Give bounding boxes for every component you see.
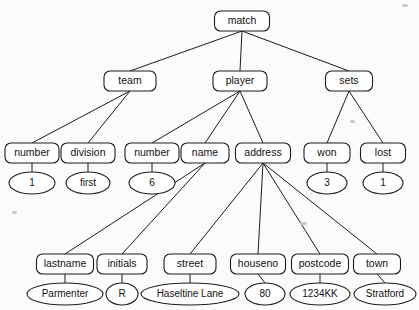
node-label-team: team	[118, 74, 142, 86]
value-node-v_street[interactable]: Haseltine Lane	[141, 283, 239, 305]
node-label-sets: sets	[339, 74, 358, 86]
element-node-postcode[interactable]: postcode	[292, 254, 349, 274]
node-label-postcode: postcode	[299, 257, 342, 269]
edge-player-to-name	[205, 91, 240, 143]
element-node-won[interactable]: won	[304, 143, 350, 163]
edge-match-to-player	[240, 31, 242, 71]
element-node-team[interactable]: team	[104, 71, 156, 91]
element-node-sets[interactable]: sets	[326, 71, 373, 91]
node-label-lastname: lastname	[44, 257, 87, 269]
edge-team-to-t_number	[32, 91, 130, 143]
scan-speck-2	[300, 222, 307, 225]
edge-match-to-team	[130, 31, 242, 71]
edge-town-to-v_town	[377, 274, 385, 283]
scan-speck-1	[12, 211, 17, 214]
element-node-match[interactable]: match	[215, 11, 270, 31]
value-node-v_division[interactable]: first	[66, 172, 110, 194]
value-node-v_team_number[interactable]: 1	[9, 172, 55, 194]
element-node-lastname[interactable]: lastname	[37, 254, 94, 274]
element-node-name[interactable]: name	[181, 143, 229, 163]
node-label-street: street	[177, 257, 203, 269]
node-label-p_number: number	[134, 146, 170, 158]
value-node-v_town[interactable]: Stratford	[354, 283, 416, 305]
element-node-p_number[interactable]: number	[125, 143, 179, 163]
scan-speck-0	[402, 4, 408, 7]
value-label-v_division: first	[80, 177, 96, 188]
node-label-lost: lost	[375, 146, 391, 158]
value-node-v_lost[interactable]: 1	[363, 172, 403, 194]
node-label-houseno: houseno	[238, 257, 278, 269]
value-label-v_town: Stratford	[366, 288, 404, 299]
tree-diagram-canvas: matchteamplayersetsnumberdivisionnumbern…	[0, 0, 419, 310]
value-node-v_p_number[interactable]: 6	[129, 172, 175, 194]
element-node-address[interactable]: address	[236, 143, 291, 163]
node-label-town: town	[366, 257, 388, 269]
node-label-division: division	[70, 146, 105, 158]
element-node-initials[interactable]: initials	[97, 254, 147, 274]
value-label-v_houseno: 80	[259, 288, 271, 299]
value-label-v_postcode: 1234KK	[302, 288, 338, 299]
value-node-v_initials[interactable]: R	[106, 283, 138, 305]
node-label-initials: initials	[107, 257, 136, 269]
value-label-v_street: Haseltine Lane	[157, 288, 224, 299]
edge-sets-to-lost	[349, 91, 383, 143]
element-node-lost[interactable]: lost	[361, 143, 406, 163]
value-label-v_initials: R	[118, 288, 125, 299]
value-node-v_houseno[interactable]: 80	[245, 283, 285, 305]
edge-houseno-to-v_houseno	[258, 274, 265, 283]
scan-specks-layer	[12, 4, 408, 225]
element-node-player[interactable]: player	[213, 71, 267, 91]
value-label-v_p_number: 6	[149, 177, 155, 188]
element-node-t_number[interactable]: number	[5, 143, 59, 163]
node-label-player: player	[226, 74, 255, 86]
edge-player-to-p_number	[152, 91, 240, 143]
element-node-houseno[interactable]: houseno	[231, 254, 286, 274]
edge-match-to-sets	[242, 31, 349, 71]
value-label-v_team_number: 1	[29, 177, 35, 188]
node-label-name: name	[192, 146, 218, 158]
value-label-v_lost: 1	[380, 177, 386, 188]
edge-address-to-street	[190, 163, 263, 254]
edge-player-to-address	[240, 91, 263, 143]
value-node-v_won[interactable]: 3	[307, 172, 347, 194]
node-label-t_number: number	[14, 146, 50, 158]
edge-address-to-houseno	[258, 163, 263, 254]
node-label-won: won	[316, 146, 336, 158]
value-label-v_lastname: Parmenter	[42, 288, 89, 299]
value-node-v_postcode[interactable]: 1234KK	[290, 283, 350, 305]
scan-speck-3	[350, 120, 355, 123]
element-node-town[interactable]: town	[354, 254, 401, 274]
edge-sets-to-won	[327, 91, 349, 143]
node-label-address: address	[244, 146, 281, 158]
value-node-v_lastname[interactable]: Parmenter	[27, 283, 103, 305]
tree-diagram: matchteamplayersetsnumberdivisionnumbern…	[0, 0, 419, 310]
value-nodes-layer: 1first631ParmenterRHaseltine Lane801234K…	[9, 172, 416, 305]
element-node-street[interactable]: street	[164, 254, 216, 274]
element-node-division[interactable]: division	[61, 143, 115, 163]
edge-team-to-division	[88, 91, 130, 143]
node-label-match: match	[228, 14, 257, 26]
value-label-v_won: 3	[324, 177, 330, 188]
